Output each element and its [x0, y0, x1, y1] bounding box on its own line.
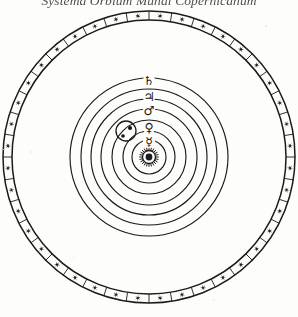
star-shape: [200, 284, 207, 292]
star-shape: [287, 143, 293, 149]
star-band-divider: [10, 199, 19, 202]
star-band-divider: [260, 238, 267, 243]
copernican-system-diagram: ♄♃♂♀☿: [0, 0, 298, 317]
star-glyph: [287, 165, 293, 171]
star-shape: [179, 291, 185, 298]
star-glyph: [200, 284, 207, 292]
star-glyph: [266, 227, 274, 235]
star-glyph: [8, 187, 15, 193]
star-band-divider: [19, 91, 27, 95]
star-band-divider: [5, 178, 14, 179]
planet-symbol-venus: ♀: [144, 120, 153, 135]
star-glyph: [219, 274, 227, 282]
star-shape: [276, 208, 284, 215]
star-shape: [71, 32, 79, 40]
star-glyph: [15, 208, 23, 215]
star-glyph: [113, 16, 119, 23]
star-shape: [8, 187, 15, 193]
planet-symbol-iupiter: ♃: [143, 89, 154, 104]
star-band-divider: [31, 238, 38, 243]
star-glyph: [157, 13, 163, 19]
star-band-divider: [170, 292, 171, 301]
planet-symbol-mars: ♂: [143, 103, 154, 118]
star-glyph: [71, 274, 79, 282]
star-glyph: [283, 121, 290, 127]
star-band-divider: [46, 254, 52, 260]
star-shape: [157, 295, 163, 301]
planet-symbol-mercurius: ☿: [145, 134, 153, 149]
star-band-divider: [279, 112, 288, 115]
star-shape: [24, 79, 32, 87]
star-band-divider: [246, 54, 252, 60]
star-shape: [157, 13, 163, 19]
star-glyph: [200, 23, 207, 31]
star-glyph: [135, 13, 141, 19]
star-glyph: [276, 99, 284, 106]
star-band-divider: [19, 219, 27, 223]
star-shape: [276, 99, 284, 106]
engraving-plate: Systema Orbium Mundi Copernicanum: [0, 0, 298, 317]
star-band-divider: [5, 134, 14, 135]
star-band-divider: [191, 18, 194, 27]
earth-moon-epicycle: [116, 121, 136, 141]
star-shape: [266, 227, 274, 235]
star-band-divider: [46, 54, 52, 60]
star-shape: [219, 274, 227, 282]
star-shape: [135, 295, 141, 301]
page-title: Systema Orbium Mundi Copernicanum: [41, 0, 256, 9]
earth-body: [128, 126, 132, 130]
star-glyph: [276, 208, 284, 215]
star-band-divider: [83, 27, 87, 35]
star-glyph: [24, 79, 32, 87]
star-shape: [71, 274, 79, 282]
star-shape: [200, 23, 207, 31]
star-band-divider: [83, 279, 87, 287]
star-glyph: [5, 143, 11, 149]
star-band-divider: [279, 199, 288, 202]
star-band-divider: [170, 13, 171, 22]
star-glyph: [91, 23, 98, 31]
star-band-divider: [260, 71, 267, 76]
star-glyph: [219, 32, 227, 40]
star-shape: [91, 23, 98, 31]
star-band-divider: [126, 292, 127, 301]
star-glyph: [71, 32, 79, 40]
star-shape: [219, 32, 227, 40]
star-glyph: [15, 99, 23, 106]
star-band-divider: [211, 279, 215, 287]
sun-at-center: [140, 148, 159, 167]
lunar-orbit-circle: [116, 121, 136, 141]
star-band-divider: [211, 27, 215, 35]
star-band-divider: [246, 254, 252, 260]
star-glyph: [8, 121, 15, 127]
star-glyph: [179, 16, 185, 23]
star-band-divider: [230, 268, 235, 275]
star-band-divider: [31, 71, 38, 76]
star-band-divider: [63, 268, 68, 275]
star-shape: [266, 79, 274, 87]
plate-title-band: Systema Orbium Mundi Copernicanum: [0, 0, 298, 11]
moon-body: [121, 134, 125, 138]
star-shape: [15, 208, 23, 215]
star-glyph: [157, 295, 163, 301]
star-band-divider: [63, 39, 68, 46]
star-band-divider: [104, 287, 107, 296]
star-band-divider: [191, 287, 194, 296]
star-shape: [113, 291, 119, 298]
star-glyph: [91, 284, 98, 292]
star-glyph: [24, 227, 32, 235]
star-shape: [283, 121, 290, 127]
star-shape: [179, 16, 185, 23]
star-shape: [15, 99, 23, 106]
star-band-divider: [104, 18, 107, 27]
star-glyph: [283, 187, 290, 193]
star-shape: [287, 165, 293, 171]
sun-core: [146, 154, 153, 161]
star-shape: [135, 13, 141, 19]
star-glyph: [5, 165, 11, 171]
star-shape: [5, 143, 11, 149]
star-glyph: [135, 295, 141, 301]
star-band-divider: [230, 39, 235, 46]
star-band-divider: [10, 112, 19, 115]
star-band-divider: [284, 134, 293, 135]
